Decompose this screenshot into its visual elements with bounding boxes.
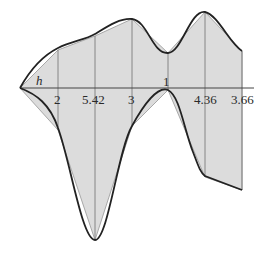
ordinate-label-3: 3 — [128, 92, 135, 107]
ordinate-label-5: 4.36 — [194, 92, 217, 107]
ordinate-label-6: 3.66 — [231, 92, 254, 107]
trapezoid-diagram: h 2 5.42 3 1 4.36 3.66 — [0, 0, 265, 253]
ordinate-label-2: 5.42 — [82, 92, 105, 107]
step-label-h: h — [36, 73, 43, 88]
ordinate-label-4: 1 — [163, 74, 170, 89]
ordinate-label-1: 2 — [54, 92, 61, 107]
